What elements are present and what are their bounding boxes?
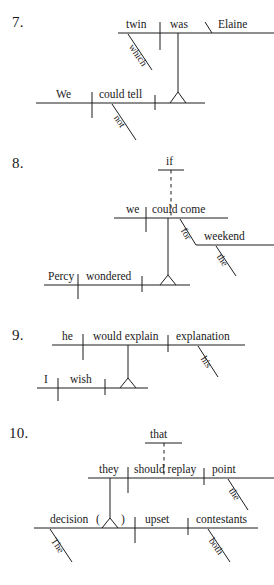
word-percy: Percy	[48, 271, 74, 283]
word-could-tell: could tell	[99, 89, 142, 101]
word-contestants: contestants	[196, 514, 247, 526]
item-number-10: 10.	[9, 425, 29, 442]
word-was: was	[170, 19, 188, 31]
word-they: they	[99, 464, 119, 476]
word-elaine: Elaine	[218, 19, 247, 31]
word-we: we	[126, 204, 139, 216]
paren-open: (	[96, 514, 100, 526]
word-wish: wish	[70, 374, 92, 386]
item-number-7: 7.	[12, 14, 24, 31]
word-twin: twin	[126, 19, 146, 31]
word-i: I	[44, 374, 48, 386]
word-he: he	[62, 331, 73, 343]
word-could-come: could come	[152, 204, 205, 216]
diagram-9-lines	[37, 334, 245, 401]
word-if: if	[166, 156, 173, 168]
item-number-8: 8.	[12, 155, 24, 172]
diagram-10-lines	[34, 443, 274, 562]
paren-close: )	[121, 514, 125, 526]
word-should-replay: should replay	[134, 464, 196, 476]
item-number-9: 9.	[12, 327, 24, 344]
word-explanation: explanation	[176, 331, 230, 343]
word-upset: upset	[145, 514, 169, 526]
diagram-7-lines	[36, 22, 274, 140]
word-wondered: wondered	[86, 271, 131, 283]
word-that: that	[150, 429, 167, 441]
word-we: We	[56, 89, 71, 101]
word-would-explain: would explain	[93, 331, 158, 343]
worksheet-sheet: 7. 8. 9. 10. twin was Elaine which We co…	[0, 0, 274, 585]
word-decision: decision	[50, 514, 88, 526]
word-weekend: weekend	[204, 231, 245, 243]
word-point: point	[212, 464, 236, 476]
